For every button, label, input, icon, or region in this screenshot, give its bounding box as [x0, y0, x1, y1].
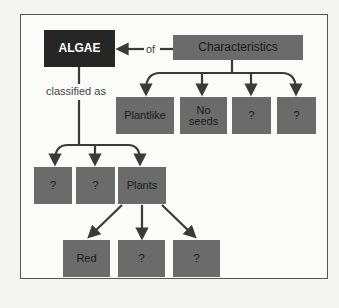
characteristic-plantlike: Plantlike	[116, 97, 174, 134]
characteristic-unknown-1: ?	[232, 97, 271, 134]
class-unknown-1: ?	[34, 167, 72, 204]
plants-unknown-2: ?	[173, 240, 220, 277]
characteristic-unknown-2: ?	[277, 97, 316, 134]
algae-node: ALGAE	[44, 30, 115, 67]
characteristic-no-seeds: No seeds	[180, 97, 227, 134]
class-plants: Plants	[118, 167, 166, 204]
class-unknown-2: ?	[76, 167, 115, 204]
classified-as-label: classified as	[46, 85, 106, 97]
characteristics-node: Characteristics	[173, 35, 303, 60]
of-label: of	[146, 43, 155, 55]
plants-red: Red	[63, 240, 110, 277]
plants-unknown-1: ?	[118, 240, 165, 277]
